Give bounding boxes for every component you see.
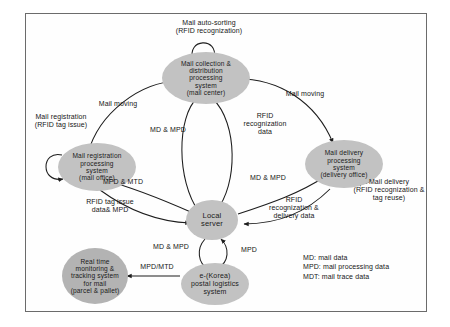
label-md-mpd-bottom: MD & MPD (140, 243, 202, 251)
label-md-mpd-center: MD & MPD (135, 126, 201, 134)
node-postal-logistics[interactable]: e-(Korea) postal logistics system (181, 263, 249, 305)
label-mpd-mtd-left: MPD & MTD (90, 178, 156, 186)
label-mail-moving-right: Mail moving (272, 90, 338, 98)
label-md-mpd-right: MD & MPD (237, 174, 299, 182)
label-mail-moving-left: Mail moving (85, 100, 151, 108)
node-tracking-system[interactable]: Real time monitoring & tracking system f… (62, 248, 128, 304)
legend-line-md: MD: mail data (303, 253, 423, 262)
label-rfid-tag-issue-data: RFID tag issue data& MPD (65, 198, 155, 214)
node-local-server[interactable]: Local server (186, 200, 238, 240)
node-local-server-label: Local server (199, 212, 225, 229)
node-mail-center[interactable]: Mail collection & distribution processin… (162, 52, 250, 104)
legend-line-mpd: MPD: mail processing data (303, 262, 423, 271)
label-mail-registration: Mail registration (RFID tag issue) (18, 113, 104, 129)
diagram-canvas: Mail collection & distribution processin… (0, 0, 450, 327)
label-rfid-recognization-delivery-data: RFID recognization & delivery data (248, 196, 340, 220)
node-tracking-system-label: Real time monitoring & tracking system f… (69, 258, 122, 295)
label-rfid-recognization-data: RFID recognization data (232, 112, 298, 136)
label-mail-delivery: Mail delivery (RFID recognization & tag … (338, 178, 440, 202)
label-mail-auto-sorting: Mail auto-sorting (RFID recognization) (150, 19, 268, 35)
label-mpd-bottom: MPD (232, 246, 266, 254)
legend-line-mdt: MDT: mail trace data (303, 272, 423, 281)
node-delivery-office-label: Mail delivery processing system (deliver… (318, 149, 369, 179)
label-mpd-mtd-bottom: MPD/MTD (130, 263, 184, 271)
node-postal-logistics-label: e-(Korea) postal logistics system (189, 272, 241, 295)
legend: MD: mail data MPD: mail processing data … (303, 253, 423, 281)
node-mail-center-label: Mail collection & distribution processin… (179, 60, 233, 97)
